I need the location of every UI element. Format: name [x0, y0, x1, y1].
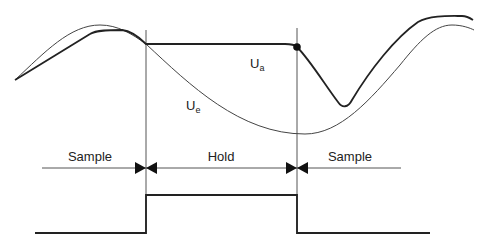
arrowhead-right-icon [135, 162, 146, 174]
sample-hold-diagram: Ua Ue Sample Hold Sample [0, 0, 489, 248]
hold-point-dot [293, 43, 301, 51]
sample-left-label: Sample [68, 149, 112, 164]
ua-label: Ua [250, 56, 264, 73]
arrowhead-left-icon [297, 162, 308, 174]
hold-label: Hold [208, 149, 235, 164]
input-signal-ue-curve [15, 25, 474, 134]
arrowhead-left-icon [146, 162, 157, 174]
sample-right-label: Sample [328, 149, 372, 164]
output-signal-ua-curve [15, 16, 473, 106]
arrowhead-right-icon [286, 162, 297, 174]
control-pulse-waveform [35, 195, 430, 233]
ue-label: Ue [186, 98, 200, 115]
